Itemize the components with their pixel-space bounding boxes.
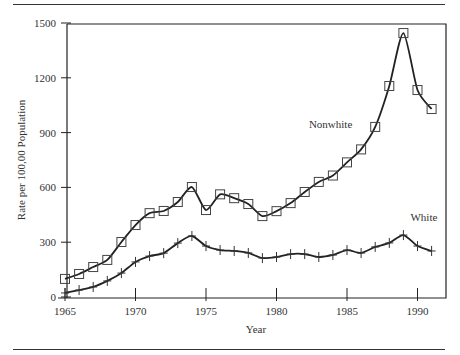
x-axis: 196519701975198019851990 <box>54 288 429 317</box>
series-group <box>61 29 437 298</box>
plus-marker <box>174 238 182 248</box>
plus-marker <box>216 245 224 255</box>
x-axis-title: Year <box>246 323 267 335</box>
plus-marker <box>61 288 69 298</box>
plus-marker <box>117 268 125 278</box>
y-tick-label: 300 <box>40 236 57 248</box>
plus-marker <box>329 250 337 260</box>
plus-marker <box>428 246 436 256</box>
x-tick-label: 1965 <box>54 305 77 317</box>
plus-marker <box>146 251 154 261</box>
y-tick-label: 900 <box>40 127 57 139</box>
plus-marker <box>301 249 309 259</box>
y-axis: 030060090012001500 <box>34 17 71 303</box>
plus-marker <box>371 242 379 252</box>
plus-marker <box>160 248 168 258</box>
y-tick-label: 0 <box>51 291 57 303</box>
plus-marker <box>89 282 97 292</box>
line-chart: 030060090012001500 196519701975198019851… <box>0 0 460 355</box>
plus-marker <box>414 241 422 251</box>
x-tick-label: 1985 <box>336 305 359 317</box>
plus-marker <box>75 285 83 295</box>
plus-marker <box>244 248 252 258</box>
y-tick-label: 1500 <box>34 17 57 29</box>
y-tick-label: 1200 <box>34 72 57 84</box>
plus-marker <box>202 241 210 251</box>
nonwhite-label: Nonwhite <box>309 118 353 130</box>
y-axis-title: Rate per 100,00 Population <box>15 99 27 220</box>
x-tick-label: 1980 <box>266 305 289 317</box>
x-tick-label: 1975 <box>195 305 218 317</box>
plus-marker <box>103 276 111 286</box>
plus-marker <box>132 257 140 267</box>
plus-marker <box>357 248 365 258</box>
x-tick-label: 1970 <box>125 305 148 317</box>
x-tick-label: 1990 <box>407 305 430 317</box>
plus-marker <box>230 246 238 256</box>
plus-marker <box>343 245 351 255</box>
y-tick-label: 600 <box>40 181 57 193</box>
plot-frame <box>58 24 446 298</box>
white-label: White <box>410 211 437 223</box>
plus-marker <box>385 238 393 248</box>
plus-marker <box>315 252 323 262</box>
plus-marker <box>258 253 266 263</box>
plus-marker <box>273 252 281 262</box>
plus-marker <box>188 231 196 241</box>
plus-marker <box>287 249 295 259</box>
plus-marker <box>399 230 407 240</box>
